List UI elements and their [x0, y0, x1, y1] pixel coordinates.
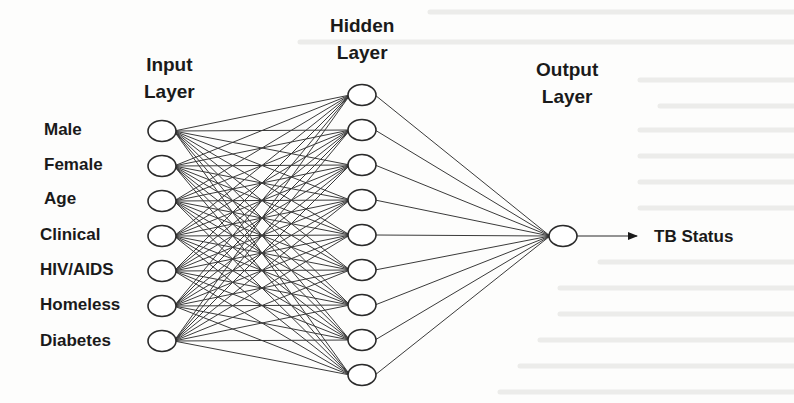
- input-label-diabetes: Diabetes: [40, 332, 111, 349]
- connection-hidden-3-output: [375, 200, 550, 236]
- connection-hidden-1-output: [375, 130, 550, 236]
- hidden-layer-title-line1: Hidden: [330, 12, 394, 39]
- connection-hidden-4-output: [375, 235, 550, 236]
- output-nodes: [549, 226, 577, 247]
- connection-input-6-hidden-7: [174, 340, 350, 341]
- input-node-0: [148, 121, 176, 142]
- network-graph: [0, 0, 794, 403]
- connection-input-6-hidden-0: [174, 95, 350, 341]
- input-node-5: [148, 296, 176, 317]
- output-layer-title: Output Layer: [536, 56, 598, 110]
- input-nodes: [148, 121, 176, 352]
- hidden-node-5: [348, 260, 376, 281]
- input-label-male: Male: [44, 121, 82, 138]
- connection-hidden-7-output: [375, 236, 550, 340]
- connection-input-4-hidden-0: [174, 95, 350, 271]
- connection-hidden-6-output: [375, 236, 550, 305]
- hidden-node-2: [348, 155, 376, 176]
- input-layer-title: Input Layer: [144, 51, 195, 105]
- input-node-6: [148, 331, 176, 352]
- hidden-node-7: [348, 330, 376, 351]
- connection-hidden-8-output: [375, 236, 550, 375]
- output-layer-title-line2: Layer: [536, 83, 598, 110]
- hidden-node-1: [348, 120, 376, 141]
- connection-input-6-hidden-8: [174, 341, 350, 375]
- connection-hidden-0-output: [375, 95, 550, 236]
- input-node-2: [148, 191, 176, 212]
- hidden-layer-title-line2: Layer: [330, 39, 394, 66]
- input-label-age: Age: [44, 190, 76, 207]
- input-layer-title-line1: Input: [144, 51, 195, 78]
- input-layer-title-line2: Layer: [144, 78, 195, 105]
- input-label-clinical: Clinical: [40, 226, 100, 243]
- connection-hidden-5-output: [375, 236, 550, 270]
- hidden-nodes: [348, 85, 376, 386]
- output-label-tb-status: TB Status: [654, 228, 733, 245]
- hidden-node-8: [348, 365, 376, 386]
- connection-input-0-hidden-0: [174, 95, 350, 131]
- input-node-3: [148, 226, 176, 247]
- input-node-1: [148, 156, 176, 177]
- input-label-hiv-aids: HIV/AIDS: [40, 261, 114, 278]
- input-label-female: Female: [44, 156, 103, 173]
- hidden-node-6: [348, 295, 376, 316]
- hidden-to-output-connections: [375, 95, 550, 375]
- output-node: [549, 226, 577, 247]
- input-node-4: [148, 261, 176, 282]
- input-label-homeless: Homeless: [40, 296, 120, 313]
- connection-hidden-2-output: [375, 165, 550, 236]
- connection-input-6-hidden-6: [174, 305, 350, 341]
- hidden-layer-title: Hidden Layer: [330, 12, 394, 66]
- input-to-hidden-connections: [174, 95, 350, 375]
- hidden-node-3: [348, 190, 376, 211]
- hidden-node-0: [348, 85, 376, 106]
- hidden-node-4: [348, 225, 376, 246]
- diagram-canvas: Input Layer Hidden Layer Output Layer Ma…: [0, 0, 794, 403]
- connection-input-6-hidden-4: [174, 235, 350, 341]
- connection-input-2-hidden-0: [174, 95, 350, 201]
- output-layer-title-line1: Output: [536, 56, 598, 83]
